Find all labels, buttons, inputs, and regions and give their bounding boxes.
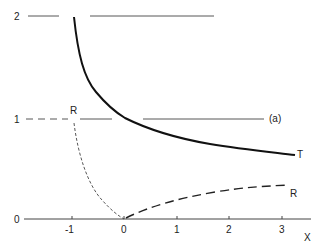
- y-tick-label-0: 0: [14, 214, 20, 225]
- y-tick-label-1: 1: [14, 114, 20, 125]
- figure: 2 1 0 -1 0 1 2 3 X (a) T R R: [0, 0, 330, 245]
- label-t: T: [297, 149, 303, 160]
- x-tick-label-3: 3: [279, 224, 285, 235]
- x-tick-label-0: 0: [121, 224, 127, 235]
- x-tick-label-1: 1: [174, 224, 180, 235]
- label-r-left: R: [70, 105, 77, 116]
- curve-r-right: [126, 185, 289, 218]
- x-axis-label: X: [304, 232, 311, 243]
- annotation-a: (a): [269, 113, 281, 124]
- x-tick-label-2: 2: [226, 224, 232, 235]
- curve-t: [74, 17, 295, 155]
- y-tick-label-2: 2: [14, 11, 20, 22]
- x-tick-label-m1: -1: [65, 224, 74, 235]
- curve-r-left: [74, 123, 124, 219]
- label-r-right: R: [290, 188, 297, 199]
